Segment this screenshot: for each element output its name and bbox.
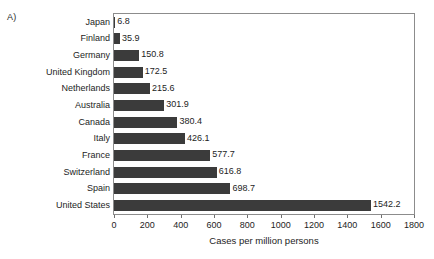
category-label: United States [0, 199, 110, 212]
x-tick-label: 1800 [404, 219, 424, 231]
bar-value-label: 301.9 [166, 98, 189, 111]
category-label: Netherlands [0, 82, 110, 95]
bar [114, 150, 210, 161]
x-tick-mark [314, 215, 315, 218]
x-tick-label: 1400 [337, 219, 357, 231]
bar [114, 67, 143, 78]
x-tick-mark [214, 215, 215, 218]
category-label: France [0, 149, 110, 162]
x-tick-mark [414, 215, 415, 218]
bar [114, 183, 230, 194]
x-tick-mark [347, 215, 348, 218]
x-tick-label: 1200 [304, 219, 324, 231]
bar-value-label: 35.9 [122, 32, 140, 45]
bar [114, 200, 371, 211]
category-label: United Kingdom [0, 66, 110, 79]
x-tick-mark [247, 215, 248, 218]
x-tick-mark [281, 215, 282, 218]
bar [114, 83, 150, 94]
bar-row: 301.9 [114, 97, 414, 114]
category-label: Canada [0, 116, 110, 129]
bar [114, 17, 115, 28]
x-tick-label: 800 [240, 219, 255, 231]
x-tick-label: 400 [173, 219, 188, 231]
category-label: Germany [0, 49, 110, 62]
bar-value-label: 172.5 [145, 65, 168, 78]
bar-value-label: 616.8 [219, 165, 242, 178]
bar [114, 117, 177, 128]
x-tick-label: 1000 [271, 219, 291, 231]
category-axis-labels: JapanFinlandGermanyUnited KingdomNetherl… [0, 14, 110, 214]
bar [114, 133, 185, 144]
x-tick-mark [181, 215, 182, 218]
bar-row: 150.8 [114, 47, 414, 64]
bar-row: 172.5 [114, 64, 414, 81]
x-tick-mark [114, 215, 115, 218]
bar-value-label: 380.4 [179, 115, 202, 128]
category-label: Japan [0, 16, 110, 29]
bar-row: 6.8 [114, 14, 414, 31]
x-tick-mark [381, 215, 382, 218]
bar-value-label: 215.6 [152, 82, 175, 95]
category-label: Australia [0, 99, 110, 112]
figure-panel: A) JapanFinlandGermanyUnited KingdomNeth… [0, 0, 434, 259]
bar-value-label: 150.8 [141, 48, 164, 61]
bar-value-label: 1542.2 [373, 198, 401, 211]
bar-value-label: 426.1 [187, 132, 210, 145]
bars-layer: 6.835.9150.8172.5215.6301.9380.4426.1577… [114, 14, 414, 214]
x-tick-label: 0 [111, 219, 116, 231]
category-label: Spain [0, 182, 110, 195]
bar [114, 167, 217, 178]
bar [114, 33, 120, 44]
x-tick-mark [147, 215, 148, 218]
bar-row: 698.7 [114, 181, 414, 198]
bar-value-label: 577.7 [212, 148, 235, 161]
bar-row: 426.1 [114, 131, 414, 148]
x-axis-ticks: 020040060080010001200140016001800 [0, 215, 434, 231]
x-tick-label: 1600 [371, 219, 391, 231]
bar-value-label: 6.8 [117, 15, 130, 28]
x-axis-title: Cases per million persons [113, 234, 415, 247]
bar-row: 1542.2 [114, 197, 414, 214]
bar-row: 215.6 [114, 81, 414, 98]
bar-row: 616.8 [114, 164, 414, 181]
x-tick-label: 600 [206, 219, 221, 231]
x-tick-label: 200 [140, 219, 155, 231]
category-label: Finland [0, 32, 110, 45]
bar [114, 100, 164, 111]
bar [114, 50, 139, 61]
bar-row: 577.7 [114, 147, 414, 164]
category-label: Switzerland [0, 166, 110, 179]
bar-value-label: 698.7 [232, 182, 255, 195]
bar-row: 380.4 [114, 114, 414, 131]
category-label: Italy [0, 132, 110, 145]
bar-row: 35.9 [114, 31, 414, 48]
